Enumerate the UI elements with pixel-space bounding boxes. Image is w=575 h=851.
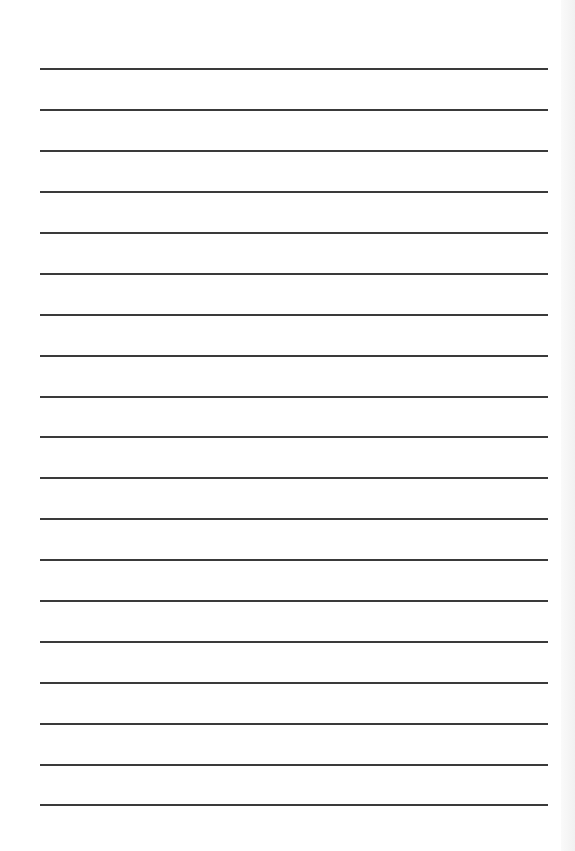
ruled-line [40, 477, 548, 479]
ruled-line [40, 518, 548, 520]
ruled-line [40, 232, 548, 234]
ruled-line [40, 109, 548, 111]
ruled-line [40, 396, 548, 398]
ruled-line [40, 314, 548, 316]
ruled-line [40, 68, 548, 70]
ruled-line [40, 723, 548, 725]
ruled-line [40, 641, 548, 643]
ruled-line [40, 682, 548, 684]
ruled-line [40, 191, 548, 193]
ruled-line [40, 559, 548, 561]
ruled-line [40, 804, 548, 806]
ruled-line [40, 764, 548, 766]
ruled-line [40, 273, 548, 275]
ruled-line [40, 355, 548, 357]
ruled-line [40, 436, 548, 438]
ruled-line [40, 150, 548, 152]
ruled-line [40, 600, 548, 602]
page-edge-shadow [561, 0, 575, 851]
